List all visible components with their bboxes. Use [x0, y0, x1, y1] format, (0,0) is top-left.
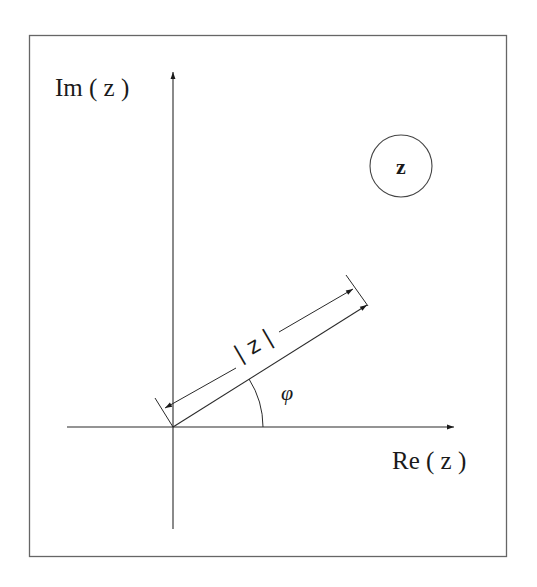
- magnitude-label: | z |: [230, 325, 278, 368]
- vector-z: [173, 305, 367, 427]
- angle-label: φ: [281, 380, 293, 405]
- angle-arc: [249, 379, 263, 427]
- diagram-frame: [30, 36, 507, 557]
- point-z-label: z: [396, 154, 406, 179]
- dimension-extension-start: [155, 398, 173, 427]
- dimension-line-upper: [279, 289, 353, 332]
- dimension-extension-end: [346, 275, 368, 306]
- imaginary-axis-label: Im ( z ): [55, 74, 129, 102]
- real-axis-label: Re ( z ): [392, 447, 466, 475]
- dimension-line-lower: [165, 368, 236, 408]
- complex-plane-diagram: | z | φ Im ( z ) Re ( z ) z: [0, 0, 537, 587]
